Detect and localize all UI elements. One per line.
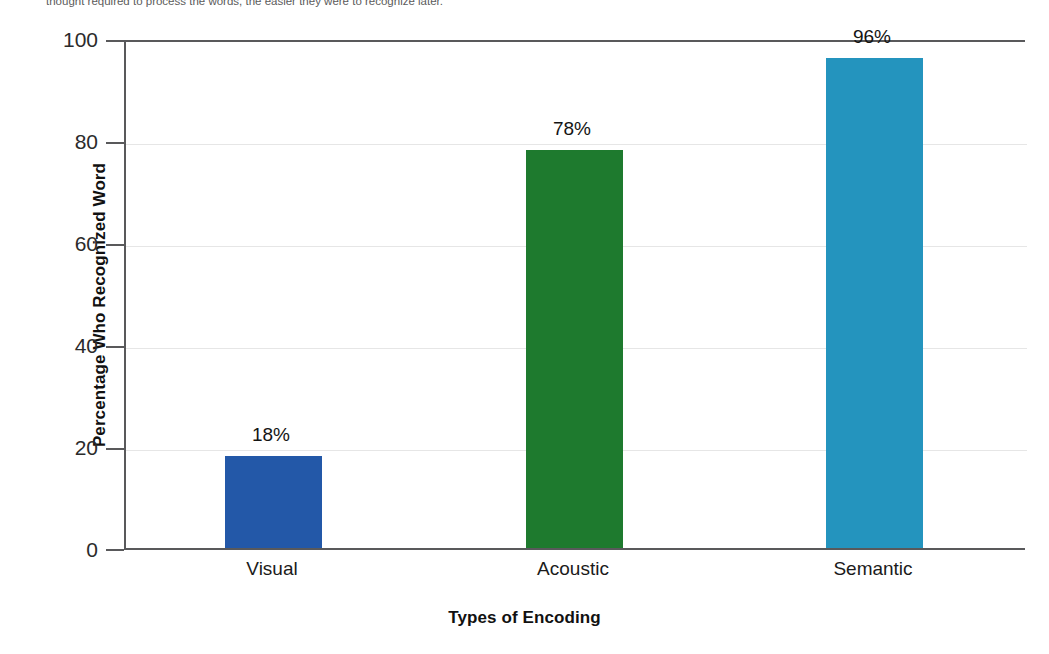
y-tick-mark-40 (106, 346, 124, 348)
y-tick-label-60: 60 (14, 232, 98, 256)
y-tick-mark-0 (106, 549, 124, 551)
x-category-label-acoustic: Acoustic (453, 558, 693, 580)
y-tick-label-40: 40 (14, 334, 98, 358)
bar-visual[interactable] (225, 456, 322, 548)
y-tick-label-100: 100 (14, 28, 98, 52)
x-axis-title: Types of Encoding (0, 608, 1049, 628)
bar-semantic[interactable] (826, 58, 923, 548)
y-tick-mark-20 (106, 448, 124, 450)
bar-value-visual: 18% (191, 424, 351, 446)
y-tick-mark-100 (106, 40, 124, 42)
y-tick-mark-80 (106, 142, 124, 144)
y-tick-label-80: 80 (14, 130, 98, 154)
bar-value-acoustic: 78% (492, 118, 652, 140)
plot-area (124, 40, 1025, 550)
x-category-label-visual: Visual (152, 558, 392, 580)
y-tick-mark-60 (106, 244, 124, 246)
y-tick-label-0: 0 (14, 538, 98, 562)
bar-value-semantic: 96% (792, 26, 952, 48)
x-category-label-semantic: Semantic (753, 558, 993, 580)
y-tick-label-20: 20 (14, 436, 98, 460)
y-axis-tick-labels: 100 80 60 40 20 0 (0, 0, 98, 654)
bar-chart-figure: Percentage Who Recognized Word 100 80 60… (0, 0, 1049, 654)
bar-acoustic[interactable] (526, 150, 623, 548)
